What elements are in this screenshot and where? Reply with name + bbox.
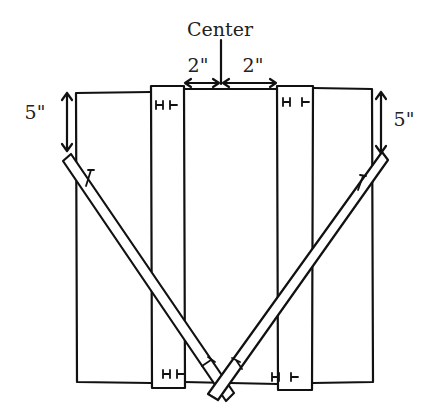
right-drop-dimension: 5" (376, 92, 414, 153)
left-gap-dimension: 2" (185, 54, 219, 87)
center-label: Center (187, 18, 254, 40)
left-drop-dimension: 5" (25, 93, 72, 151)
right-drop-label: 5" (394, 108, 415, 130)
right-gap-label: 2" (243, 54, 264, 76)
left-drop-label: 5" (25, 101, 46, 123)
left-diagonal-board (63, 154, 234, 401)
right-vertical-board (272, 86, 313, 390)
brace-layout-diagram: Center 2" 2" 5" 5" (0, 0, 435, 418)
right-gap-dimension: 2" (223, 54, 276, 87)
left-vertical-board (151, 86, 185, 388)
left-gap-label: 2" (188, 54, 209, 76)
